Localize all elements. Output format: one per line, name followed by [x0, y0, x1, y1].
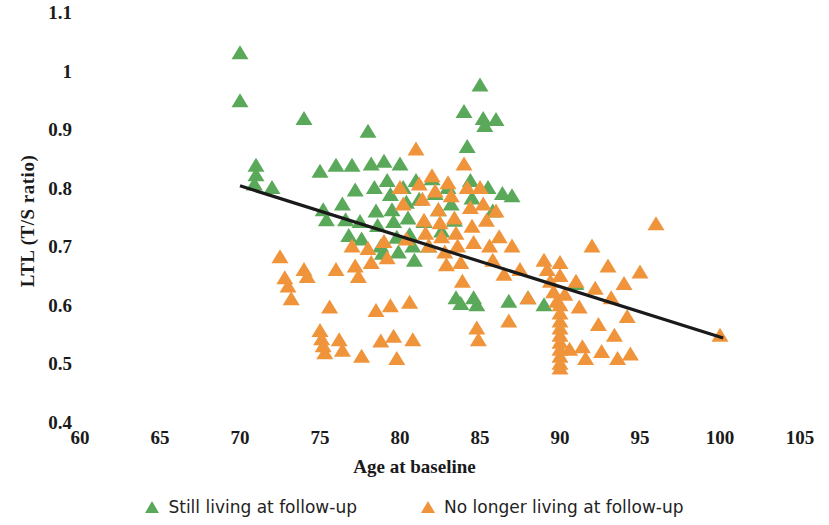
data-point-marker	[454, 274, 471, 288]
data-point-marker	[500, 314, 517, 328]
data-point-marker	[353, 349, 370, 363]
data-point-marker	[392, 157, 409, 171]
data-point-marker	[536, 297, 553, 311]
data-point-marker	[232, 45, 249, 59]
data-point-marker	[574, 339, 591, 353]
data-point-marker	[283, 291, 300, 305]
data-point-marker	[321, 300, 338, 314]
data-point-marker	[500, 294, 517, 308]
data-point-marker	[536, 253, 553, 267]
triangle-marker-icon	[145, 501, 159, 513]
data-point-marker	[593, 344, 610, 358]
data-point-marker	[568, 274, 585, 288]
data-point-marker	[347, 182, 364, 196]
data-point-marker	[334, 196, 351, 210]
data-point-marker	[382, 298, 399, 312]
data-point-marker	[408, 141, 425, 155]
data-point-marker	[427, 184, 444, 198]
data-point-marker	[590, 317, 607, 331]
data-point-marker	[344, 158, 361, 172]
data-point-marker	[491, 229, 508, 243]
data-point-marker	[400, 210, 417, 224]
data-point-marker	[448, 226, 465, 240]
data-point-marker	[488, 112, 505, 126]
triangle-marker-icon	[421, 501, 435, 513]
data-point-marker	[385, 329, 402, 343]
data-point-marker	[438, 257, 455, 271]
data-point-marker	[388, 351, 405, 365]
data-point-marker	[432, 215, 449, 229]
data-point-marker	[363, 157, 380, 171]
data-point-marker	[366, 180, 383, 194]
data-point-marker	[600, 259, 617, 273]
data-point-marker	[571, 300, 588, 314]
data-point-marker	[584, 239, 601, 253]
legend-label-still-living: Still living at follow-up	[168, 497, 357, 517]
data-point-marker	[368, 303, 385, 317]
data-point-marker	[331, 332, 348, 346]
data-point-marker	[464, 219, 481, 233]
data-point-marker	[360, 124, 377, 138]
data-point-marker	[390, 244, 407, 258]
data-point-marker	[416, 213, 433, 227]
data-point-marker	[328, 158, 345, 172]
data-point-marker	[347, 259, 364, 273]
data-point-marker	[616, 276, 633, 290]
data-point-marker	[276, 270, 293, 284]
data-point-marker	[520, 290, 537, 304]
data-point-marker	[472, 78, 489, 92]
scatter-chart: LTL (T/S ratio) 0.40.50.60.70.80.911.1 6…	[0, 0, 829, 525]
data-point-marker	[296, 111, 313, 125]
chart-legend: Still living at follow-up No longer livi…	[0, 492, 829, 522]
data-point-marker	[465, 235, 482, 249]
data-point-marker	[312, 164, 329, 178]
data-point-marker	[368, 203, 385, 217]
data-point-marker	[406, 253, 423, 267]
data-point-marker	[379, 173, 396, 187]
plot-area	[0, 0, 829, 525]
data-point-marker	[468, 321, 485, 335]
data-point-marker	[272, 249, 289, 263]
data-point-marker	[404, 332, 421, 346]
legend-item-no-longer-living: No longer living at follow-up	[421, 497, 684, 517]
data-point-marker	[376, 234, 393, 248]
data-point-marker	[340, 228, 357, 242]
data-point-marker	[401, 295, 418, 309]
data-point-marker	[232, 93, 249, 107]
data-point-marker	[264, 180, 281, 194]
data-point-marker	[606, 328, 623, 342]
data-point-marker	[648, 216, 665, 230]
legend-label-no-longer-living: No longer living at follow-up	[444, 497, 684, 517]
series-no-longer-living	[272, 141, 729, 374]
data-point-marker	[456, 157, 473, 171]
data-point-marker	[459, 139, 476, 153]
data-point-marker	[446, 210, 463, 224]
data-point-marker	[376, 154, 393, 168]
data-point-marker	[440, 175, 457, 189]
data-point-marker	[424, 168, 441, 182]
data-point-marker	[456, 104, 473, 118]
data-point-marker	[552, 255, 569, 269]
legend-item-still-living: Still living at follow-up	[145, 497, 357, 517]
data-point-marker	[449, 239, 466, 253]
data-point-marker	[587, 281, 604, 295]
data-point-marker	[622, 346, 639, 360]
data-point-marker	[632, 264, 649, 278]
data-point-marker	[328, 262, 345, 276]
